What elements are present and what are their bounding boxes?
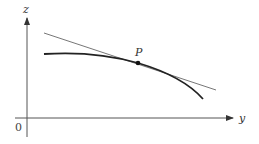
z-axis-label: z xyxy=(22,3,29,16)
point-p-label: P xyxy=(134,46,143,59)
tangent-diagram: P z y 0 xyxy=(0,0,259,144)
point-p xyxy=(136,61,141,66)
curve xyxy=(44,53,203,99)
origin-label: 0 xyxy=(15,121,22,134)
y-axis-label: y xyxy=(238,112,246,125)
